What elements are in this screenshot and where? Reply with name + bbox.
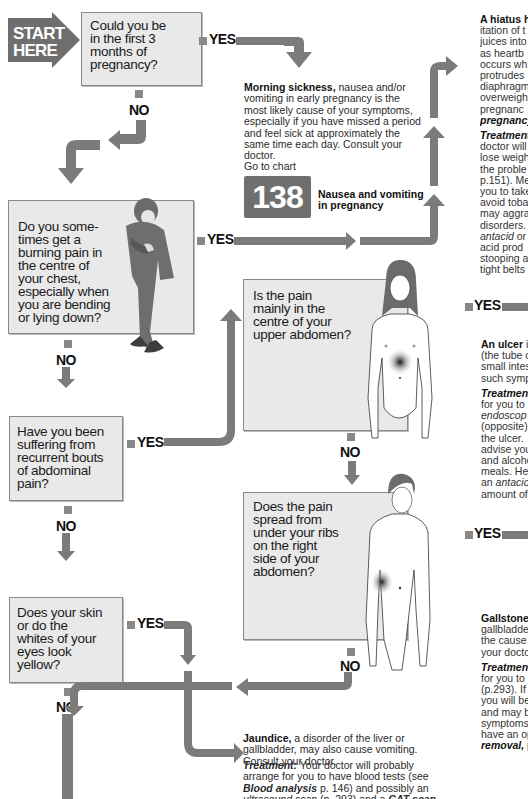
no-label-q2: NO [56, 352, 76, 368]
arrow-q5-to-ulcer [502, 303, 528, 311]
start-label: START HERE [13, 25, 64, 59]
no-label-q1: NO [129, 102, 149, 118]
question-abdominal-pain-text: Have you been suffering from recurrent b… [17, 425, 104, 490]
ulcer-text: An ulcer in (the tube o small intes such… [481, 339, 528, 500]
no-label-q5: NO [340, 444, 360, 460]
arrow-q6-to-q4 [62, 672, 362, 732]
arrow-q6-to-gallstones [502, 531, 528, 539]
hiatus-hernia-text: A hiatus h itation of t juices into as h… [480, 14, 528, 276]
no-label-q3: NO [56, 518, 76, 534]
arrow-q5-to-q6 [344, 461, 360, 487]
arrow-q2-to-q3 [58, 367, 76, 389]
yes-label-q3: YES [137, 434, 164, 450]
yes-label-q5: YES [474, 297, 501, 313]
question-pregnancy-text: Could you be in the first 3 months of pr… [90, 19, 166, 71]
arrow-q1-to-q2 [60, 118, 150, 200]
arrow-q3-to-q5 [163, 303, 243, 453]
yes-label-q4: YES [137, 615, 164, 631]
question-upper-abdomen-text: Is the pain mainly in the centre of your… [253, 289, 351, 341]
jaundice-treatment-text: Treatment: Your doctor will probably arr… [243, 760, 443, 799]
question-jaundice-text: Does your skin or do the whites of your … [17, 606, 102, 671]
question-right-rib-pain-text: Does the pain spread from under your rib… [253, 500, 339, 578]
male-figure-right-side-pain-illustration [366, 470, 432, 670]
arrow-to-hiatus-hernia [234, 58, 449, 248]
yes-label-q1: YES [209, 31, 236, 47]
yes-label-q6: YES [474, 525, 501, 541]
female-figure-upper-abdomen-pain-illustration [368, 258, 432, 448]
jaundice-title: Jaundice, [243, 732, 291, 744]
arrow-q3-to-q4 [58, 533, 76, 563]
question-chest-pain-text: Do you some- times get a burning pain in… [18, 220, 110, 324]
gallstones-text: Gallstones gallbladde the cause your doc… [481, 613, 528, 751]
yes-label-q2: YES [207, 231, 234, 247]
